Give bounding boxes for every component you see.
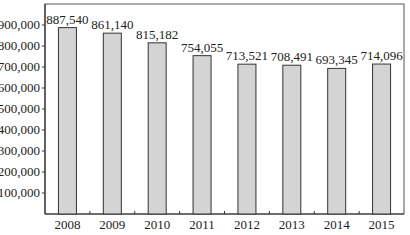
x-tick-label: 2010 [144, 217, 170, 232]
y-tick-label: 600,000 [0, 80, 40, 95]
bar-2010 [148, 43, 166, 214]
y-tick-label: 900,000 [0, 17, 40, 32]
x-tick-label: 2014 [324, 217, 351, 232]
bar-value-label: 887,540 [46, 12, 88, 27]
x-tick-label: 2009 [99, 217, 125, 232]
x-tick-label: 2012 [234, 217, 260, 232]
bar-2013 [283, 65, 301, 214]
x-tick-label: 2008 [54, 217, 80, 232]
bar-value-label: 815,182 [136, 27, 178, 42]
bar-2008 [58, 28, 76, 214]
y-tick-label: 400,000 [0, 122, 40, 137]
y-tick-label: 500,000 [0, 101, 40, 116]
y-axis: 100,000200,000300,000400,000500,000600,0… [0, 17, 45, 200]
y-tick-label: 300,000 [0, 143, 40, 158]
bar-value-label: 754,055 [181, 40, 223, 55]
bar-2014 [328, 68, 346, 214]
y-tick-label: 100,000 [0, 185, 40, 200]
bar-value-label: 693,345 [316, 52, 358, 67]
plot-border [45, 4, 404, 214]
bar-value-label: 708,491 [271, 49, 313, 64]
bars: 887,540861,140815,182754,055713,521708,4… [46, 12, 403, 214]
bar-2015 [373, 64, 391, 214]
bar-value-label: 861,140 [91, 17, 133, 32]
y-tick-label: 800,000 [0, 38, 40, 53]
x-tick-label: 2013 [279, 217, 305, 232]
bar-2009 [103, 33, 121, 214]
x-tick-label: 2015 [369, 217, 395, 232]
x-tick-label: 2011 [189, 217, 215, 232]
bar-value-label: 713,521 [226, 48, 268, 63]
y-tick-label: 700,000 [0, 59, 40, 74]
bar-chart: 100,000200,000300,000400,000500,000600,0… [0, 0, 410, 235]
plot-frame [45, 4, 404, 214]
bar-2012 [238, 64, 256, 214]
y-tick-label: 200,000 [0, 164, 40, 179]
bar-value-label: 714,096 [360, 48, 403, 63]
bar-2011 [193, 56, 211, 214]
